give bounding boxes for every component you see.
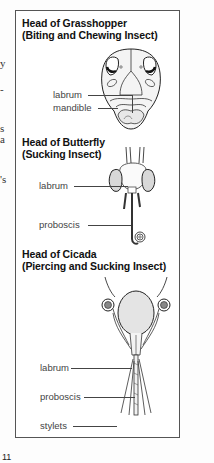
margin-fragment: 's [0,173,6,185]
leader-line [74,186,128,187]
textbook-page: y - s a 's Head of Grasshopper (Biting a… [0,0,214,463]
grasshopper-heading: Head of Grasshopper (Biting and Chewing … [22,17,158,41]
cicada-stylets-label: stylets [40,420,67,431]
cicada-head-illustration [91,273,181,423]
butterfly-heading: Head of Butterfly (Sucking Insect) [22,136,105,160]
cicada-labrum-label: labrum [40,362,69,373]
insect-mouthparts-figure: Head of Grasshopper (Biting and Chewing … [15,10,180,438]
butterfly-proboscis-label: proboscis [39,219,80,230]
grasshopper-mandible-label: mandible [53,102,92,113]
margin-fragment: - [0,83,4,95]
butterfly-labrum-label: labrum [39,180,68,191]
leader-line [88,225,131,226]
leader-line [73,426,117,427]
margin-fragment: y [0,57,6,69]
cicada-subtitle: (Piercing and Sucking Insect) [22,260,166,272]
butterfly-head-illustration [106,147,158,247]
leader-line [88,95,133,96]
grasshopper-subtitle: (Biting and Chewing Insect) [22,29,158,41]
cicada-heading: Head of Cicada (Piercing and Sucking Ins… [22,248,166,272]
butterfly-subtitle: (Sucking Insect) [22,148,105,160]
grasshopper-title: Head of Grasshopper [22,17,158,29]
cicada-proboscis-label: proboscis [40,391,81,402]
grasshopper-labrum-label: labrum [53,89,82,100]
leader-line [98,108,118,109]
butterfly-title: Head of Butterfly [22,136,105,148]
leader-line [71,368,132,369]
page-number: 11 [2,452,11,462]
cicada-title: Head of Cicada [22,248,166,260]
leader-line [132,95,133,113]
grasshopper-head-illustration [96,45,166,135]
leader-line [84,397,135,398]
margin-fragment: a [0,133,5,145]
